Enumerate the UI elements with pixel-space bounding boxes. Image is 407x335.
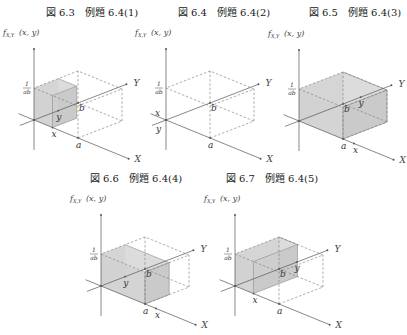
y-axis-arrow: [390, 84, 392, 86]
x-variable-label: x: [353, 145, 358, 155]
vertical-axis-label: fX,Y (x, y): [267, 29, 304, 39]
b-label: b: [211, 103, 217, 113]
vertical-axis-arrow: [234, 214, 236, 216]
vertical-axis-arrow: [298, 49, 300, 51]
a-label: a: [76, 140, 81, 150]
a-tick: [144, 303, 146, 305]
b-label: b: [79, 103, 85, 113]
y-axis-label: Y: [133, 78, 140, 88]
x-axis-label: X: [266, 154, 274, 164]
height-label-denominator: ab: [90, 254, 98, 261]
y-variable-label: y: [294, 263, 301, 273]
x-axis-arrow: [260, 158, 262, 160]
a-label: a: [341, 141, 346, 151]
vertical-axis-label: fX,Y (x, y): [69, 194, 106, 204]
a-tick: [77, 137, 79, 139]
figure-caption: 図 6.6 例題 6.4(4): [90, 172, 182, 184]
x-variable-label: x: [51, 129, 56, 139]
height-label-denominator: ab: [23, 88, 31, 95]
a-tick: [342, 138, 344, 140]
y-axis-label: Y: [334, 244, 341, 254]
figure-fig-6-5: 図 6.5 例題 6.4(3)fX,Y (x, y)XY1ababxy: [267, 6, 407, 165]
vertical-axis-label: fX,Y (x, y): [134, 28, 171, 38]
x-axis-arrow: [329, 324, 331, 326]
figure-caption: 図 6.3 例題 6.4(1): [46, 6, 138, 18]
figure-fig-6-7: 図 6.7 例題 6.4(5)fX,Y (x, y)XY1ababxy: [203, 172, 343, 330]
y-variable-label: y: [155, 124, 162, 134]
x-axis: [220, 280, 330, 325]
y-axis-arrow: [326, 249, 328, 251]
y-axis-arrow: [257, 83, 259, 85]
origin-point: [33, 119, 35, 121]
height-label-denominator: ab: [288, 89, 296, 96]
figure-fig-6-6: 図 6.6 例題 6.4(4)fX,Y (x, y)XY1ababxy: [69, 172, 209, 330]
b-label: b: [146, 269, 152, 279]
vertical-axis-arrow: [165, 48, 167, 50]
vertical-axis-label: fX,Y (x, y): [203, 194, 240, 204]
a-tick: [278, 303, 280, 305]
a-label: a: [208, 140, 213, 150]
b-label: b: [280, 269, 286, 279]
x-axis-arrow: [128, 158, 130, 160]
x-axis: [151, 114, 261, 159]
x-axis-label: X: [399, 155, 407, 165]
a-label: a: [277, 306, 282, 316]
y-axis-label: Y: [398, 79, 405, 89]
y-variable-label: y: [55, 112, 62, 122]
origin-point: [234, 285, 236, 287]
x-axis-arrow: [195, 324, 197, 326]
vertical-axis-label: fX,Y (x, y): [2, 28, 39, 38]
height-label-denominator: ab: [224, 254, 232, 261]
vertical-axis-arrow: [100, 214, 102, 216]
x-axis: [19, 114, 129, 159]
y-axis: [152, 84, 258, 125]
y-variable-label: y: [122, 278, 129, 288]
x-axis-label: X: [134, 154, 142, 164]
figure-fig-6-4: 図 6.4 例題 6.4(2)fX,Y (x, y)XY1ababxy: [134, 6, 274, 164]
origin-point: [298, 120, 300, 122]
height-label-numerator: 1: [25, 80, 29, 87]
y-axis-arrow: [192, 249, 194, 251]
a-tick: [209, 137, 211, 139]
figure-caption: 図 6.5 例題 6.4(3): [309, 6, 401, 18]
figure-caption: 図 6.7 例題 6.4(5): [226, 172, 318, 184]
a-label: a: [143, 306, 148, 316]
height-label-numerator: 1: [157, 80, 161, 87]
diagram-canvas: 図 6.3 例題 6.4(1)fX,Y (x, y)XY1ababxy図 6.4…: [0, 0, 407, 335]
figure-fig-6-3: 図 6.3 例題 6.4(1)fX,Y (x, y)XY1ababxy: [2, 6, 142, 164]
height-label-denominator: ab: [155, 88, 163, 95]
x-variable-label: x: [252, 295, 257, 305]
x-variable-label: x: [155, 310, 160, 320]
vertical-axis-arrow: [33, 48, 35, 50]
y-axis-arrow: [125, 83, 127, 85]
b-label: b: [344, 104, 350, 114]
x-axis-label: X: [335, 320, 343, 330]
origin-point: [165, 119, 167, 121]
height-label-numerator: 1: [226, 246, 230, 253]
x-axis-arrow: [393, 159, 395, 161]
y-axis-label: Y: [200, 244, 207, 254]
x-variable-label: x: [155, 108, 160, 118]
x-axis-label: X: [201, 320, 209, 330]
origin-point: [100, 285, 102, 287]
y-axis-label: Y: [265, 78, 272, 88]
figure-caption: 図 6.4 例題 6.4(2): [178, 6, 270, 18]
height-label-numerator: 1: [92, 246, 96, 253]
y-variable-label: y: [358, 98, 365, 108]
height-label-numerator: 1: [290, 81, 294, 88]
